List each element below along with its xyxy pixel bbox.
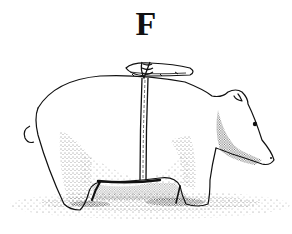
bear-fetish-illustration	[0, 0, 292, 234]
binding-cord	[140, 62, 153, 180]
arrowhead	[126, 63, 193, 76]
body-shading	[60, 110, 262, 205]
bear-nose	[270, 157, 272, 159]
tail	[24, 126, 34, 143]
bear-eye	[253, 122, 257, 126]
